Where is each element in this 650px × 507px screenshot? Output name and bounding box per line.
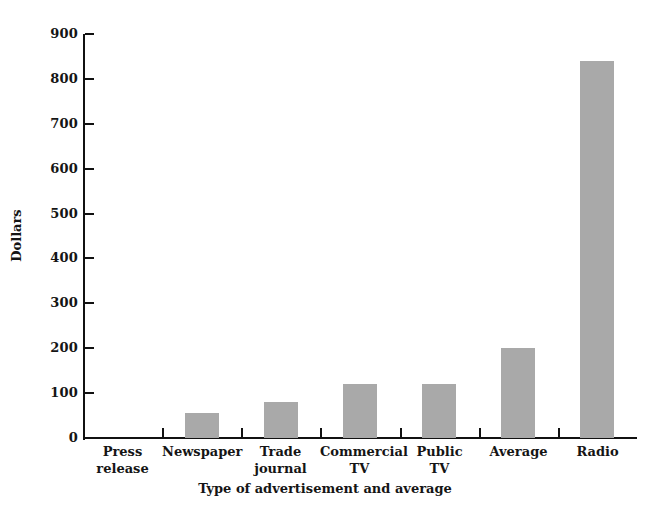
x-axis-category-label-line: Commercial <box>320 443 399 460</box>
x-axis-category-label-line: Public <box>400 443 479 460</box>
y-axis-tick-label-text: 600 <box>34 161 78 176</box>
y-axis-tick-label-text: 700 <box>34 116 78 131</box>
y-axis-tick-label-text: 400 <box>34 250 78 265</box>
x-axis-category-label: Radio <box>558 443 637 460</box>
bars-layer <box>83 34 637 438</box>
y-axis-tick-label-text: 500 <box>34 206 78 221</box>
bar <box>580 61 614 438</box>
x-axis-category-label-line: release <box>83 460 162 477</box>
bar <box>343 384 377 438</box>
y-axis-tick-label: 700 <box>26 116 78 130</box>
x-axis-category-label: Average <box>479 443 558 460</box>
bar <box>185 413 219 438</box>
x-axis-category-label-line: journal <box>241 460 320 477</box>
x-axis-category-label: Tradejournal <box>241 443 320 477</box>
x-axis-category-label-line: Average <box>479 443 558 460</box>
y-axis-tick-label: 400 <box>26 250 78 264</box>
x-axis-category-label-line: Newspaper <box>162 443 241 460</box>
y-axis-tick-label: 900 <box>26 26 78 40</box>
y-axis-tick-label-text: 100 <box>34 385 78 400</box>
y-axis-tick-label: 200 <box>26 340 78 354</box>
x-axis-title: Type of advertisement and average <box>0 481 650 496</box>
chart-page: 0100200300400500600700800900 Pressreleas… <box>0 0 650 507</box>
x-axis-category-label-line: TV <box>400 460 479 477</box>
y-axis-tick-label-text: 800 <box>34 71 78 86</box>
y-axis-tick-label: 800 <box>26 71 78 85</box>
y-axis-tick-label-text: 900 <box>34 26 78 41</box>
y-axis-title: Dollars <box>9 196 24 276</box>
y-axis-tick-label: 600 <box>26 161 78 175</box>
y-axis-tick-label: 300 <box>26 295 78 309</box>
x-axis-category-label: CommercialTV <box>320 443 399 477</box>
x-axis-category-label-line: Press <box>83 443 162 460</box>
x-axis-category-label: Newspaper <box>162 443 241 460</box>
y-axis-tick-label-text: 0 <box>34 430 78 445</box>
y-axis-tick-label-text: 300 <box>34 295 78 310</box>
y-axis-tick-label: 500 <box>26 206 78 220</box>
bar <box>422 384 456 438</box>
bar <box>264 402 298 438</box>
x-axis-category-label-line: TV <box>320 460 399 477</box>
x-axis-category-label-line: Trade <box>241 443 320 460</box>
x-axis-category-label: Pressrelease <box>83 443 162 477</box>
x-axis-category-label: PublicTV <box>400 443 479 477</box>
x-axis-category-label-line: Radio <box>558 443 637 460</box>
y-axis-tick-label: 100 <box>26 385 78 399</box>
y-axis-tick-label-text: 200 <box>34 340 78 355</box>
y-axis-tick-label: 0 <box>26 430 78 444</box>
bar <box>501 348 535 438</box>
